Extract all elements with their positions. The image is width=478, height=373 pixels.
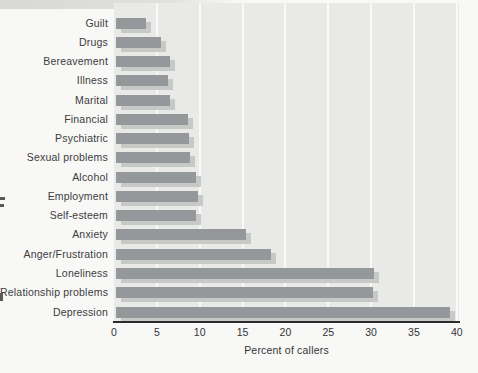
category-label: Employment — [0, 189, 108, 204]
bar — [116, 229, 246, 240]
bar — [116, 75, 168, 86]
bar — [116, 18, 146, 29]
x-tick-label: 35 — [399, 326, 429, 338]
bar — [116, 287, 373, 298]
category-label: Bereavement — [0, 54, 108, 69]
category-label: Financial — [0, 112, 108, 127]
bar — [116, 37, 161, 48]
bar — [116, 191, 198, 202]
gridline — [413, 3, 415, 322]
category-label: Self-esteem — [0, 208, 108, 223]
category-label: Marital — [0, 93, 108, 108]
category-label: Guilt — [0, 16, 108, 31]
category-label: Drugs — [0, 35, 108, 50]
x-tick-label: 5 — [142, 326, 172, 338]
gridline — [456, 3, 458, 322]
category-label: Depression — [0, 305, 108, 320]
bar — [116, 95, 170, 106]
x-tick-label: 10 — [185, 326, 215, 338]
bar-chart-figure: GuiltDrugsBereavementIllnessMaritalFinan… — [0, 0, 478, 373]
x-tick-label: 0 — [99, 326, 129, 338]
bar — [116, 307, 450, 318]
scan-artifact — [0, 197, 5, 200]
category-label: Relationship problems — [0, 285, 108, 300]
category-label: Anger/Frustration — [0, 247, 108, 262]
x-tick-label: 30 — [356, 326, 386, 338]
bar — [116, 133, 189, 144]
scan-artifact — [0, 204, 4, 207]
bar — [116, 56, 170, 67]
category-label: Illness — [0, 73, 108, 88]
category-label: Anxiety — [0, 227, 108, 242]
x-axis-line — [113, 321, 460, 323]
scan-artifact — [0, 293, 3, 301]
x-axis-title: Percent of callers — [114, 344, 459, 356]
bar — [116, 268, 374, 279]
bar — [116, 152, 190, 163]
bar — [116, 114, 188, 125]
bar — [116, 172, 196, 183]
x-tick-label: 20 — [270, 326, 300, 338]
bar — [116, 249, 271, 260]
x-tick-label: 25 — [313, 326, 343, 338]
bar — [116, 210, 196, 221]
x-tick-label: 15 — [228, 326, 258, 338]
category-label: Psychiatric — [0, 131, 108, 146]
category-label: Alcohol — [0, 170, 108, 185]
category-label: Sexual problems — [0, 150, 108, 165]
category-label: Loneliness — [0, 266, 108, 281]
x-tick-label: 40 — [442, 326, 472, 338]
